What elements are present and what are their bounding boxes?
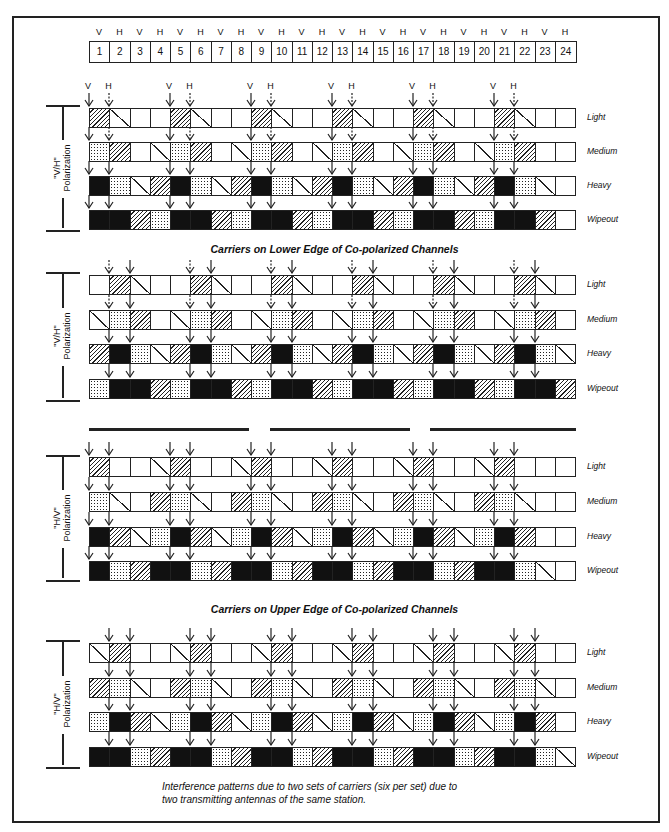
- channel-cell-B: [515, 380, 535, 398]
- channel-cell-E: [475, 311, 495, 329]
- channel-cell-B: [495, 211, 515, 229]
- channel-cell-H: [171, 458, 191, 476]
- channel-cell-H: [252, 458, 272, 476]
- divider: [89, 428, 249, 431]
- channel-cell-E: [313, 311, 333, 329]
- channel-cell-E: [455, 109, 475, 127]
- channel-cell-B: [353, 380, 373, 398]
- carrier-arrow-icon: [408, 546, 418, 560]
- channel-cell-H: [495, 345, 515, 363]
- channel-cell-E: [374, 143, 394, 161]
- channel-cell-H: [353, 528, 373, 546]
- channel-cell-S: [131, 679, 151, 697]
- channel-cell-H: [333, 345, 353, 363]
- severity-label: Heavy: [587, 531, 611, 541]
- polarization-label: H: [474, 27, 494, 37]
- channel-cell-X: [353, 177, 373, 195]
- channel-cell-E: [556, 562, 575, 580]
- channel-cell-S: [252, 644, 272, 662]
- interference-row-heavy: [89, 712, 576, 732]
- polarization-marker: "V/H"Polarization: [40, 272, 86, 400]
- channel-cell-H: [232, 493, 252, 511]
- channel-cell-S: [536, 276, 556, 294]
- channel-cell-H: [212, 713, 232, 731]
- carrier-arrow-icon: [327, 512, 337, 526]
- carrier-arrow-icon: [185, 663, 195, 677]
- channel-cell-H: [293, 211, 313, 229]
- channel-cell-S: [556, 748, 575, 766]
- carrier-arrow-icon: [125, 329, 135, 343]
- carrier-arrow-icon: [185, 732, 195, 746]
- arrow-up-icon: [62, 107, 64, 140]
- channel-cell-E: [151, 644, 171, 662]
- carrier-arrow-icon: [125, 697, 135, 711]
- carrier-arrow-icon: [104, 732, 114, 746]
- channel-cell-H: [252, 345, 272, 363]
- channel-cell: 10: [272, 42, 292, 62]
- channel-cell-B: [414, 748, 434, 766]
- carrier-arrow-icon: [287, 364, 297, 378]
- channel-cell-B: [252, 211, 272, 229]
- channel-cell-E: [232, 276, 252, 294]
- channel-cell-S: [536, 177, 556, 195]
- carrier-arrow-icon: [287, 329, 297, 343]
- channel-cell-B: [434, 211, 454, 229]
- carrier-arrow-icon: [266, 628, 276, 642]
- carrier-arrow-icon: [489, 546, 499, 560]
- carrier-arrow-icon: [428, 161, 438, 175]
- channel-cell-S: [536, 679, 556, 697]
- channel-cell-B: [515, 713, 535, 731]
- polarization-header: VHVHVHVHVHVHVHVHVHVHVHVH: [89, 27, 575, 37]
- channel-cell-H: [293, 562, 313, 580]
- channel-cell-B: [110, 211, 130, 229]
- carrier-arrow-icon: [266, 329, 276, 343]
- carrier-arrow-icon: [327, 161, 337, 175]
- channel-cell-S: [212, 679, 232, 697]
- channel-cell-S: [110, 493, 130, 511]
- channel-cell-E: [272, 458, 292, 476]
- carrier-arrow-icon: [368, 663, 378, 677]
- channel-cell-B: [272, 345, 292, 363]
- channel-cell-X: [374, 748, 394, 766]
- channel-cell-E: [556, 493, 575, 511]
- channel-cell-E: [313, 276, 333, 294]
- channel-cell-E: [556, 528, 575, 546]
- channel-cell: 12: [313, 42, 333, 62]
- carrier-arrow-icon: [428, 442, 438, 456]
- carrier-arrow-icon: [84, 161, 94, 175]
- channel-cell-E: [171, 276, 191, 294]
- channel-cell-S: [293, 177, 313, 195]
- carrier-arrow-icon: [530, 329, 540, 343]
- channel-cell-E: [556, 458, 575, 476]
- channel-cell-B: [272, 713, 292, 731]
- channel-cell-H: [455, 562, 475, 580]
- channel-cell-S: [151, 143, 171, 161]
- channel-cell-B: [475, 562, 495, 580]
- channel-cell-E: [333, 276, 353, 294]
- channel-cell-B: [110, 713, 130, 731]
- channel-cell-S: [374, 276, 394, 294]
- carrier-arrow-icon: [104, 364, 114, 378]
- carrier-arrow-icon: [266, 546, 276, 560]
- carrier-arrow-icon: [428, 512, 438, 526]
- polarization-label: H: [555, 27, 575, 37]
- carrier-arrow-icon: [489, 127, 499, 141]
- carrier-arrow-icon: [509, 697, 519, 711]
- channel-cell-X: [455, 345, 475, 363]
- polarization-label: V: [89, 27, 109, 37]
- channel-cell-H: [191, 276, 211, 294]
- channel-cell: 16: [394, 42, 414, 62]
- carrier-arrow-icon: [509, 546, 519, 560]
- channel-cell-E: [455, 644, 475, 662]
- polarization-marker: "V/H"Polarization: [40, 105, 86, 230]
- carrier-arrow-icon: [509, 295, 519, 309]
- carrier-polarization-label: V: [490, 81, 496, 91]
- channel-cell-H: [110, 528, 130, 546]
- channel-cell-H: [374, 211, 394, 229]
- channel-cell-S: [151, 458, 171, 476]
- channel-cell-X: [495, 713, 515, 731]
- carrier-arrow-icon: [266, 93, 276, 107]
- channel-cell-H: [191, 528, 211, 546]
- channel-cell-X: [171, 713, 191, 731]
- carrier-arrow-icon: [266, 260, 276, 274]
